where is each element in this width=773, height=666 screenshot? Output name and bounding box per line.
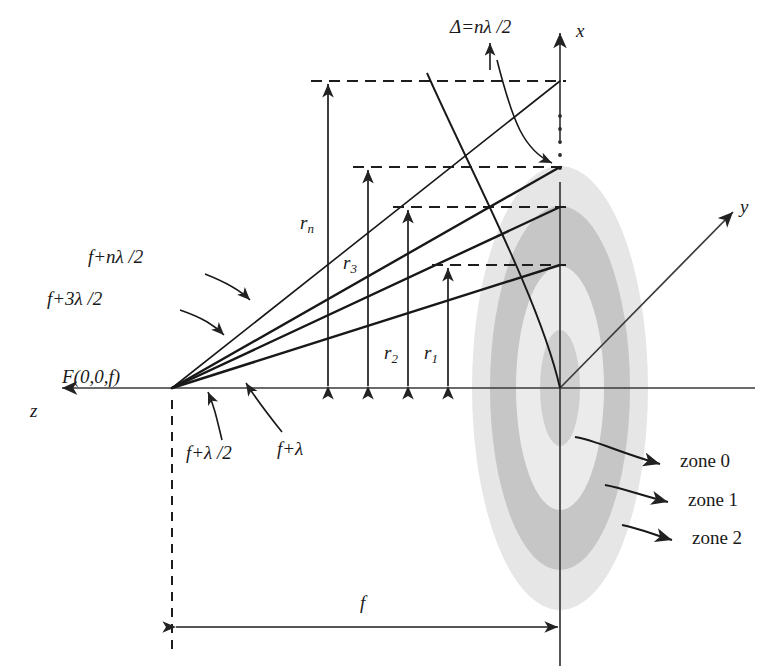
zone-label-2: zone 2 xyxy=(692,527,742,549)
radius-arrows xyxy=(328,84,448,386)
axis-label-z: z xyxy=(30,400,37,422)
radius-label-r1: r1 xyxy=(424,342,438,367)
path-difference-arrow xyxy=(490,43,552,163)
radius-label-r3: r3 xyxy=(343,252,357,277)
radius-sub-r3: 3 xyxy=(350,261,357,276)
path-label-f-plus-lambda: f+λ xyxy=(277,438,303,460)
focal-length-label: f xyxy=(360,592,365,614)
radius-label-rn: rn xyxy=(300,212,314,237)
path-label-f-plus-n-lambda-half: f+nλ /2 xyxy=(88,246,143,268)
radius-label-r2: r2 xyxy=(384,342,398,367)
path-label-f-plus-lambda-half: f+λ /2 xyxy=(186,442,232,464)
diagram-canvas: x y z F(0,0,f) Δ=nλ /2 f+nλ /2 f+3λ /2 f… xyxy=(0,0,773,666)
diagram-vector-layer xyxy=(0,0,773,666)
path-label-f-plus-3-lambda-half: f+3λ /2 xyxy=(47,288,102,310)
radius-sub-r1: 1 xyxy=(431,351,438,366)
focal-point-label: F(0,0,f) xyxy=(62,366,120,388)
path-difference-label: Δ=nλ /2 xyxy=(450,16,511,38)
radius-sub-r2: 2 xyxy=(391,351,398,366)
axis-label-x: x xyxy=(576,20,584,42)
zone-label-1: zone 1 xyxy=(688,489,738,511)
zone-label-0: zone 0 xyxy=(680,450,730,472)
axis-label-y: y xyxy=(740,196,748,218)
radius-sub-rn: n xyxy=(307,221,314,236)
